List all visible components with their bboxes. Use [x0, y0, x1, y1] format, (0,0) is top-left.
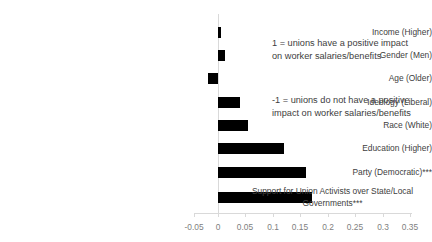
- bar-income-higher: [218, 27, 221, 38]
- x-axis-baseline: [194, 213, 412, 214]
- zero-axis-line: [218, 14, 219, 213]
- x-tick-label: 0.3: [377, 222, 389, 232]
- category-label-party-democratic: Party (Democratic)***: [237, 167, 432, 178]
- annotation-negative-coding: -1 = unions do not have a positive impac…: [272, 94, 415, 119]
- x-tick-mark: [300, 213, 301, 217]
- x-tick-mark: [194, 213, 195, 217]
- bar-gender-men: [218, 50, 225, 61]
- plot-area: Income (Higher) Gender (Men) Age (Older)…: [0, 0, 432, 242]
- x-tick-mark: [273, 213, 274, 217]
- x-tick-mark: [355, 213, 356, 217]
- x-tick-label: 0.1: [267, 222, 279, 232]
- x-tick-label: 0.15: [292, 222, 308, 232]
- category-label-education-higher: Education (Higher): [237, 143, 432, 154]
- x-tick-label: 0.25: [347, 222, 363, 232]
- bar-chart: Income (Higher) Gender (Men) Age (Older)…: [0, 0, 432, 242]
- category-label-support-union-activists: Support for Union Activists over State/L…: [235, 186, 430, 209]
- x-tick-mark: [328, 213, 329, 217]
- x-tick-label: 0: [216, 222, 221, 232]
- x-tick-label: 0.35: [402, 222, 418, 232]
- bar-age-older: [208, 73, 218, 84]
- x-tick-label: -0.05: [184, 222, 203, 232]
- category-label-age-older: Age (Older): [237, 73, 432, 84]
- x-tick-label: 0.2: [322, 222, 334, 232]
- category-label-race-white: Race (White): [237, 120, 432, 131]
- annotation-positive-coding: 1 = unions have a positive impact on wor…: [272, 37, 412, 62]
- x-tick-mark: [245, 213, 246, 217]
- x-tick-mark: [410, 213, 411, 217]
- x-tick-mark: [383, 213, 384, 217]
- x-tick-label: 0.05: [237, 222, 253, 232]
- x-tick-mark: [218, 213, 219, 217]
